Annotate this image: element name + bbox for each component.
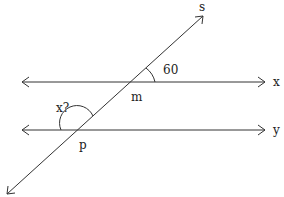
label-line-y: y xyxy=(272,123,280,137)
label-point-m: m xyxy=(131,90,143,104)
line-x xyxy=(22,77,265,87)
transversal-s xyxy=(7,16,203,194)
label-angle-60: 60 xyxy=(163,63,178,77)
label-point-p: p xyxy=(79,138,87,152)
label-s: s xyxy=(199,0,205,14)
line-y xyxy=(22,125,265,135)
angle-60-arc xyxy=(146,68,155,82)
label-line-x: x xyxy=(273,75,280,89)
label-angle-x: x? xyxy=(56,101,69,115)
parallel-lines-diagram: s 60 m x x? p y xyxy=(0,0,284,197)
